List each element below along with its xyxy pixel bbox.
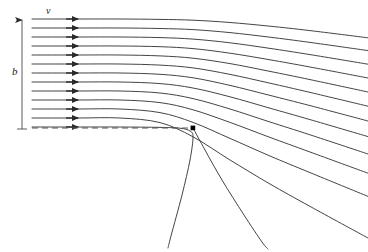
velocity-label: v <box>46 5 50 16</box>
streamline <box>32 127 193 248</box>
streamline <box>32 37 368 64</box>
streamline-canvas <box>0 0 368 252</box>
flow-streamline-figure: b v <box>0 0 368 252</box>
streamline <box>32 118 368 238</box>
b-dimension-label: b <box>12 65 18 77</box>
flow-arrowhead-group <box>66 19 78 127</box>
streamline <box>32 73 368 121</box>
streamline <box>32 100 368 173</box>
streamline-group <box>32 19 368 249</box>
streamline <box>193 128 268 249</box>
b-dimension-arrow <box>17 20 27 129</box>
separation-point-marker <box>191 126 196 131</box>
